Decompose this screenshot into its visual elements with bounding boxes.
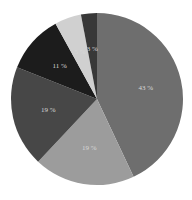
- slice-label: 11 %: [52, 62, 66, 70]
- slice-label: 3 %: [87, 45, 98, 53]
- slice-label: 43 %: [138, 84, 153, 92]
- slice-label: 5 %: [75, 48, 86, 56]
- pie-chart: [0, 0, 192, 200]
- slice-label: 19 %: [82, 144, 97, 152]
- slice-label: 19 %: [41, 106, 56, 114]
